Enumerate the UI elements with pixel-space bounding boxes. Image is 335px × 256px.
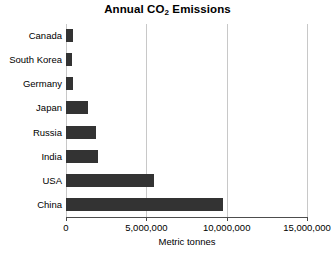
x-tick-label: 15,000,000 xyxy=(283,222,331,233)
x-tick-label: 10,000,000 xyxy=(203,222,251,233)
x-tick-mark xyxy=(307,218,308,221)
bar[interactable] xyxy=(66,77,73,90)
bar-row[interactable] xyxy=(66,193,307,217)
chart-title: Annual CO2 Emissions xyxy=(0,3,335,15)
x-axis-title: Metric tonnes xyxy=(66,236,308,247)
bar[interactable] xyxy=(66,150,98,163)
gridline xyxy=(307,24,308,217)
bar-chart: Annual CO2 Emissions 05,000,00010,000,00… xyxy=(0,0,335,256)
bar[interactable] xyxy=(66,101,88,114)
x-tick-mark xyxy=(66,218,67,221)
plot-area xyxy=(66,24,307,217)
x-tick-mark xyxy=(227,218,228,221)
bar[interactable] xyxy=(66,29,73,42)
category-label: China xyxy=(0,200,62,210)
x-axis-line xyxy=(66,217,308,218)
category-label: Russia xyxy=(0,128,62,138)
bar-row[interactable] xyxy=(66,145,307,169)
x-tick-mark xyxy=(146,218,147,221)
bar[interactable] xyxy=(66,53,72,66)
category-label: South Korea xyxy=(0,55,62,65)
category-label: Canada xyxy=(0,31,62,41)
bar[interactable] xyxy=(66,198,223,211)
category-label: India xyxy=(0,152,62,162)
x-tick-label: 5,000,000 xyxy=(125,222,167,233)
x-tick-label: 0 xyxy=(63,222,68,233)
chart-title-subscript: 2 xyxy=(165,8,170,17)
chart-title-tail: Emissions xyxy=(169,3,231,15)
category-label: Japan xyxy=(0,103,62,113)
chart-title-main: Annual CO xyxy=(104,3,164,15)
bar-row[interactable] xyxy=(66,121,307,145)
bar[interactable] xyxy=(66,174,154,187)
bar-row[interactable] xyxy=(66,24,307,48)
bar-row[interactable] xyxy=(66,96,307,120)
bar-row[interactable] xyxy=(66,48,307,72)
bar-row[interactable] xyxy=(66,169,307,193)
category-label: USA xyxy=(0,176,62,186)
bar-row[interactable] xyxy=(66,72,307,96)
bar[interactable] xyxy=(66,126,96,139)
category-label: Germany xyxy=(0,79,62,89)
